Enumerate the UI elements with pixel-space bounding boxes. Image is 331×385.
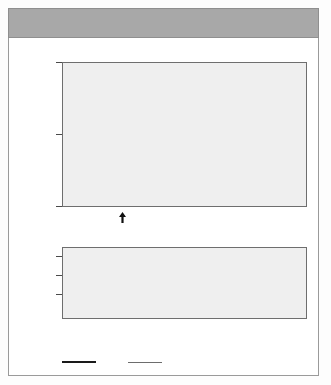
figure-container [0,0,331,385]
legend-item-placebo [128,362,168,363]
grass-pollen-plot [62,247,307,319]
chart-legend [62,354,307,370]
nasal-blockage-plot [62,62,307,207]
nasal-blockage-svg [63,63,308,208]
legend-item-steroid [62,361,102,363]
steroid-arrow-icon [118,209,127,220]
legend-swatch-steroid [62,361,96,363]
grass-pollen-svg [63,248,308,320]
legend-swatch-placebo [128,362,162,363]
figure-title-bar [8,8,319,38]
